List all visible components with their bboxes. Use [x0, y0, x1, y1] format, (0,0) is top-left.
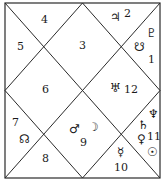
house-sign: 12 [124, 84, 138, 95]
house-sign: 11 [147, 131, 161, 142]
house-sign: 3 [79, 40, 86, 51]
neptune-icon: ♆ [148, 108, 159, 120]
moon-icon: ☽ [88, 121, 99, 133]
house-sign: 8 [42, 153, 49, 164]
jupiter-icon: ♃ [110, 11, 121, 23]
ketu-icon: ☋ [134, 41, 145, 53]
pluto-icon: ♇ [146, 27, 157, 39]
sun-icon: ☉ [147, 146, 158, 158]
house-sign: 4 [41, 14, 48, 25]
venus-icon: ♀ [137, 133, 146, 145]
mars-icon: ♂ [69, 123, 80, 135]
house-sign: 2 [124, 8, 131, 19]
uranus-icon: ♅ [110, 82, 121, 94]
house-sign: 6 [42, 84, 49, 95]
house-sign: 10 [114, 162, 128, 173]
rahu-icon: ☊ [19, 133, 30, 145]
mercury-icon: ☿ [117, 146, 124, 158]
chart-frame [0, 0, 165, 188]
house-sign: 7 [12, 117, 19, 128]
saturn-icon: ♄ [138, 119, 149, 131]
house-sign: 1 [148, 54, 155, 65]
house-sign: 9 [80, 137, 87, 148]
house-sign: 5 [17, 41, 24, 52]
